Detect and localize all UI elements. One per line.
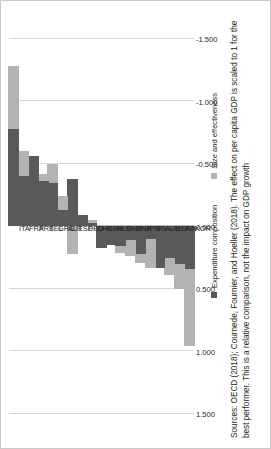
chart-legend: Expenditure compositionSize and effectiv… [207, 98, 221, 298]
legend-label: Size and effectiveness [210, 93, 219, 169]
bar-segment-expenditure-composition [38, 182, 49, 227]
bar-segment-size-and-effectiveness [125, 240, 136, 256]
bar-row [8, 39, 19, 414]
bar-segment-expenditure-composition [67, 179, 78, 227]
bar-segment-size-and-effectiveness [174, 264, 185, 289]
x-tick-label: -1.500 [196, 36, 218, 45]
chart-page: KORFINUSAAUSIRLJPNDNKSWENLDGBRCHEDEUESPA… [0, 0, 271, 449]
legend-swatch [211, 173, 217, 179]
plot-area: KORFINUSAAUSIRLJPNDNKSWENLDGBRCHEDEUESPA… [9, 39, 194, 414]
bar-segment-size-and-effectiveness [135, 254, 146, 263]
bar-segment-size-and-effectiveness [86, 220, 97, 223]
bar-segment-size-and-effectiveness [57, 197, 68, 211]
legend-item: Size and effectiveness [210, 93, 219, 179]
bar-segment-expenditure-composition [47, 183, 58, 227]
bar-segment-expenditure-composition [18, 177, 29, 227]
bar-segment-size-and-effectiveness [115, 247, 126, 253]
category-label-aus: AUS [165, 224, 180, 233]
bar-segment-expenditure-composition [28, 157, 39, 227]
bar-segment-size-and-effectiveness [38, 174, 49, 182]
bar-segment-size-and-effectiveness [8, 67, 19, 130]
bar-segment-size-and-effectiveness [164, 258, 175, 276]
legend-swatch [211, 292, 217, 298]
chart-figure: KORFINUSAAUSIRLJPNDNKSWENLDGBRCHEDEUESPA… [0, 0, 271, 449]
bar-segment-size-and-effectiveness [184, 269, 195, 347]
bar-segment-expenditure-composition [8, 129, 19, 227]
bar-segment-size-and-effectiveness [47, 164, 58, 183]
source-note: Sources: OECD (2018); Cournede, Fournier… [229, 8, 252, 438]
rotated-figure-wrapper: KORFINUSAAUSIRLJPNDNKSWENLDGBRCHEDEUESPA… [0, 0, 271, 449]
x-tick-label: 1.500 [196, 411, 215, 420]
category-label-ita: ITA [19, 224, 30, 233]
bar-segment-size-and-effectiveness [145, 239, 156, 268]
x-tick-label: 1.000 [196, 348, 215, 357]
legend-item: Expenditure composition [210, 205, 219, 298]
bar-segment-size-and-effectiveness [18, 152, 29, 177]
legend-label: Expenditure composition [210, 205, 219, 288]
category-label-fra: FRA [29, 224, 43, 233]
